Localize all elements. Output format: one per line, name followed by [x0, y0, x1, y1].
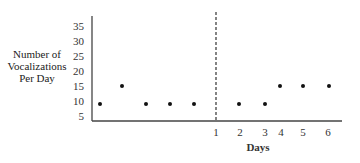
data-point [144, 102, 148, 106]
data-point [237, 102, 241, 106]
data-point [263, 102, 267, 106]
data-point [168, 102, 172, 106]
data-point [120, 84, 124, 88]
x-tick-label: 3 [262, 126, 268, 138]
data-point [278, 84, 282, 88]
y-tick-label: 30 [73, 35, 85, 47]
data-point [192, 102, 196, 106]
x-tick-label: 2 [237, 126, 243, 138]
y-tick-label: 35 [73, 20, 85, 32]
data-point [327, 84, 331, 88]
chart-plot: 3530252015105 123456 Days [0, 0, 360, 163]
x-tick-label: 5 [300, 126, 306, 138]
x-tick-label: 4 [278, 126, 284, 138]
y-tick-label: 15 [73, 80, 85, 92]
data-point [98, 102, 102, 106]
y-tick-label: 5 [79, 110, 85, 122]
y-tick-label: 10 [73, 95, 85, 107]
x-axis-label: Days [246, 141, 270, 153]
data-points [98, 84, 331, 106]
x-tick-label: 1 [213, 126, 219, 138]
x-tick-label: 6 [325, 126, 331, 138]
y-tick-labels: 3530252015105 [73, 20, 85, 122]
y-tick-label: 25 [73, 50, 85, 62]
data-point [301, 84, 305, 88]
x-tick-labels: 123456 [213, 126, 331, 138]
y-tick-label: 20 [73, 65, 85, 77]
